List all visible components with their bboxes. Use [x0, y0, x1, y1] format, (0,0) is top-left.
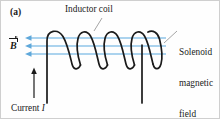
solenoid-field-line-2: magnetic: [179, 78, 213, 88]
current-label: Current I: [11, 103, 45, 113]
current-symbol: I: [42, 103, 45, 113]
leader-line-solenoid-field: [164, 31, 177, 43]
field-arrowhead-2: [25, 43, 32, 49]
leader-line-inductor-coil: [94, 18, 102, 31]
field-arrowhead-1: [25, 35, 32, 41]
current-arrow: [31, 68, 37, 99]
coil-turn-1: [47, 31, 81, 103]
panel-label: (a): [10, 7, 21, 18]
inductor-coil-label: Inductor coil: [65, 4, 113, 14]
b-field-symbol: B: [10, 40, 17, 51]
current-text: Current: [11, 103, 42, 113]
field-arrowhead-3: [25, 51, 32, 57]
solenoid-field-line-3: field: [179, 109, 213, 119]
b-field-vector-label: B: [10, 40, 17, 51]
solenoid-field-line-1: Solenoid: [179, 47, 213, 57]
figure-panel: (a) Inductor coil Solenoid magnetic fiel…: [0, 0, 220, 119]
inductor-coil: [47, 31, 162, 103]
solenoid-magnetic-field-label: Solenoid magnetic field: [179, 26, 213, 119]
current-arrowhead: [31, 68, 37, 75]
